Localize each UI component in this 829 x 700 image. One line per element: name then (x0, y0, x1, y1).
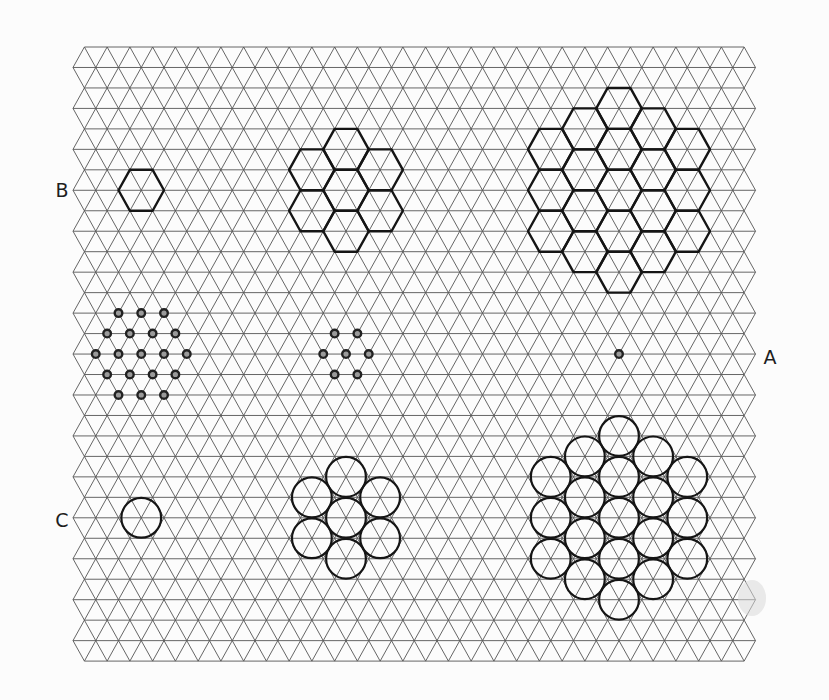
grid-diagonal-line (312, 395, 323, 415)
grid-diagonal-line (278, 67, 289, 87)
grid-diagonal-line (448, 170, 459, 190)
grid-diagonal-line (710, 231, 721, 251)
grid-diagonal-line (494, 170, 505, 190)
grid-diagonal-line (392, 47, 403, 67)
grid-diagonal-line (380, 231, 391, 251)
grid-diagonal-line (642, 620, 653, 640)
grid-diagonal-line (153, 436, 164, 456)
grid-diagonal-line (574, 190, 585, 210)
grid-diagonal-line (528, 88, 539, 108)
grid-diagonal-line (198, 477, 209, 497)
grid-diagonal-line (733, 313, 744, 333)
grid-diagonal-line (653, 641, 664, 661)
grid-diagonal-line (403, 252, 414, 272)
grid-diagonal-line (608, 170, 619, 190)
grid-diagonal-line (73, 272, 84, 292)
grid-diagonal-line (619, 641, 630, 661)
grid-diagonal-line (244, 108, 255, 128)
grid-diagonal-line (187, 67, 198, 87)
grid-diagonal-line (539, 334, 550, 354)
grid-diagonal-line (175, 129, 186, 149)
grid-diagonal-line (448, 436, 459, 456)
grid-diagonal-line (221, 272, 232, 292)
grid-diagonal-line (221, 47, 232, 67)
grid-diagonal-line (141, 641, 152, 661)
grid-diagonal-line (494, 149, 505, 169)
grid-diagonal-line (96, 477, 107, 497)
grid-diagonal-line (187, 190, 198, 210)
grid-diagonal-line (369, 559, 380, 579)
grid-diagonal-line (721, 375, 732, 395)
grid-diagonal-line (562, 395, 573, 415)
grid-diagonal-line (369, 129, 380, 149)
grid-diagonal-line (312, 559, 323, 579)
grid-diagonal-line (84, 395, 95, 415)
grid-diagonal-line (301, 272, 312, 292)
grid-diagonal-line (380, 641, 391, 661)
grid-diagonal-line (414, 313, 425, 333)
grid-diagonal-line (232, 354, 243, 374)
grid-diagonal-line (130, 620, 141, 640)
grid-diagonal-line (107, 559, 118, 579)
grid-diagonal-line (539, 313, 550, 333)
grid-diagonal-line (187, 231, 198, 251)
grid-diagonal-line (710, 211, 721, 231)
grid-diagonal-line (187, 518, 198, 538)
grid-diagonal-line (551, 211, 562, 231)
grid-diagonal-line (153, 641, 164, 661)
grid-diagonal-line (130, 211, 141, 231)
grid-diagonal-line (574, 641, 585, 661)
grid-diagonal-line (289, 620, 300, 640)
grid-diagonal-line (539, 190, 550, 210)
grid-diagonal-line (96, 190, 107, 210)
grid-diagonal-line (107, 641, 118, 661)
grid-diagonal-line (380, 67, 391, 87)
grid-diagonal-line (164, 47, 175, 67)
grid-diagonal-line (164, 211, 175, 231)
grid-diagonal-line (255, 600, 266, 620)
grid-diagonal-line (574, 620, 585, 640)
grid-diagonal-line (221, 415, 232, 435)
grid-diagonal-line (517, 170, 528, 190)
grid-diagonal-line (642, 67, 653, 87)
grid-diagonal-line (414, 170, 425, 190)
grid-diagonal-line (471, 456, 482, 476)
grid-diagonal-line (380, 252, 391, 272)
grid-diagonal-line (198, 375, 209, 395)
grid-diagonal-line (198, 579, 209, 599)
grid-diagonal-line (198, 47, 209, 67)
grid-diagonal-line (255, 436, 266, 456)
grid-diagonal-line (517, 579, 528, 599)
grid-diagonal-line (642, 375, 653, 395)
grid-diagonal-line (164, 170, 175, 190)
grid-diagonal-line (733, 272, 744, 292)
grid-diagonal-line (96, 559, 107, 579)
grid-diagonal-line (346, 67, 357, 87)
grid-diagonal-line (676, 170, 687, 190)
grid-diagonal-line (119, 620, 130, 640)
grid-diagonal-line (562, 375, 573, 395)
grid-diagonal-line (448, 497, 459, 517)
grid-diagonal-line (221, 149, 232, 169)
grid-diagonal-line (73, 559, 84, 579)
grid-diagonal-line (630, 375, 641, 395)
grid-diagonal-line (539, 252, 550, 272)
grid-diagonal-line (483, 395, 494, 415)
grid-diagonal-line (721, 67, 732, 87)
grid-diagonal-line (107, 67, 118, 87)
grid-diagonal-line (403, 47, 414, 67)
grid-diagonal-line (653, 375, 664, 395)
grid-diagonal-line (73, 293, 84, 313)
grid-diagonal-line (244, 641, 255, 661)
grid-diagonal-line (517, 497, 528, 517)
grid-diagonal-line (357, 67, 368, 87)
grid-diagonal-line (710, 600, 721, 620)
grid-diagonal-line (460, 518, 471, 538)
grid-diagonal-line (187, 149, 198, 169)
grid-diagonal-line (164, 497, 175, 517)
grid-diagonal-line (574, 88, 585, 108)
grid-diagonal-line (471, 170, 482, 190)
grid-diagonal-line (483, 231, 494, 251)
grid-diagonal-line (494, 375, 505, 395)
grid-diagonal-line (210, 641, 221, 661)
